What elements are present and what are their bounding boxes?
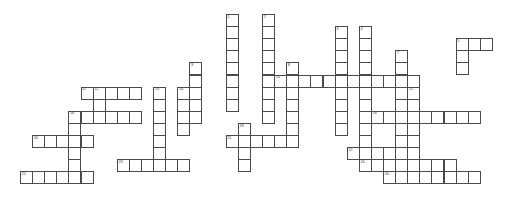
cell-number: 3 <box>336 27 338 32</box>
crossword-cell[interactable] <box>153 123 166 136</box>
cell-number: 12 <box>94 87 98 92</box>
crossword-cell[interactable] <box>359 123 372 136</box>
cell-number: 1 <box>227 15 229 20</box>
crossword-cell[interactable] <box>189 111 202 124</box>
crossword-cell[interactable] <box>407 123 420 136</box>
cell-number: 22 <box>348 148 352 153</box>
crossword-cell[interactable] <box>177 159 190 172</box>
cell-number: 4 <box>360 27 362 32</box>
crossword-cell[interactable] <box>468 171 481 184</box>
cell-number: 14 <box>179 87 183 92</box>
cell-number: 8 <box>288 63 290 68</box>
cell-number: 10 <box>276 75 280 80</box>
cell-number: 20 <box>34 136 38 141</box>
crossword-cell[interactable] <box>81 171 94 184</box>
cell-number: 25 <box>22 172 26 177</box>
crossword-cell[interactable] <box>335 123 348 136</box>
crossword-cell[interactable] <box>129 159 142 172</box>
cell-number: 13 <box>155 87 159 92</box>
crossword-puzzle: 1234202122242325265798101314151112181619 <box>0 0 511 204</box>
crossword-cell[interactable] <box>480 38 493 51</box>
crossword-cell[interactable] <box>177 123 190 136</box>
cell-number: 24 <box>360 160 364 165</box>
crossword-cell[interactable] <box>262 111 275 124</box>
crossword-cell[interactable] <box>81 135 94 148</box>
crossword-cell[interactable] <box>238 159 251 172</box>
cell-number: 5 <box>457 39 459 44</box>
cell-number: 16 <box>70 111 74 116</box>
crossword-cell[interactable] <box>286 123 299 136</box>
crossword-cell[interactable] <box>286 135 299 148</box>
cell-number: 19 <box>239 124 243 129</box>
cell-number: 23 <box>118 160 122 165</box>
cell-number: 9 <box>191 63 193 68</box>
cell-number: 7 <box>397 51 399 56</box>
cell-number: 15 <box>409 87 413 92</box>
crossword-cell[interactable] <box>456 62 469 75</box>
cell-number: 21 <box>227 136 231 141</box>
crossword-cell[interactable] <box>468 111 481 124</box>
cell-number: 26 <box>385 172 389 177</box>
crossword-cell[interactable] <box>129 111 142 124</box>
crossword-cell[interactable] <box>226 99 239 112</box>
crossword-cell[interactable]: 19 <box>238 123 251 136</box>
cell-number: 18 <box>372 111 376 116</box>
cell-number: 2 <box>264 15 266 20</box>
crossword-cell[interactable] <box>129 87 142 100</box>
crossword-cell[interactable] <box>68 123 81 136</box>
crossword-grid[interactable]: 1234202122242325265798101314151112181619 <box>0 0 511 204</box>
cell-number: 11 <box>82 87 86 92</box>
